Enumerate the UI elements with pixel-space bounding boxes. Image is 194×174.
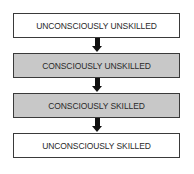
arrow-down-icon [92, 38, 102, 53]
stage-label: UNCONSCIOUSLY UNSKILLED [36, 21, 157, 31]
stage-label: CONSCIOUSLY UNSKILLED [42, 61, 151, 71]
stage-box-4: UNCONSCIOUSLY SKILLED [13, 133, 180, 158]
arrow-down-icon [92, 78, 102, 93]
stage-box-3: CONSCIOUSLY SKILLED [13, 93, 180, 118]
stage-box-2: CONSCIOUSLY UNSKILLED [13, 53, 180, 78]
stage-label: UNCONSCIOUSLY SKILLED [42, 141, 151, 151]
arrow-down-icon [92, 118, 102, 133]
stage-label: CONSCIOUSLY SKILLED [48, 101, 145, 111]
stage-box-1: UNCONSCIOUSLY UNSKILLED [13, 13, 180, 38]
